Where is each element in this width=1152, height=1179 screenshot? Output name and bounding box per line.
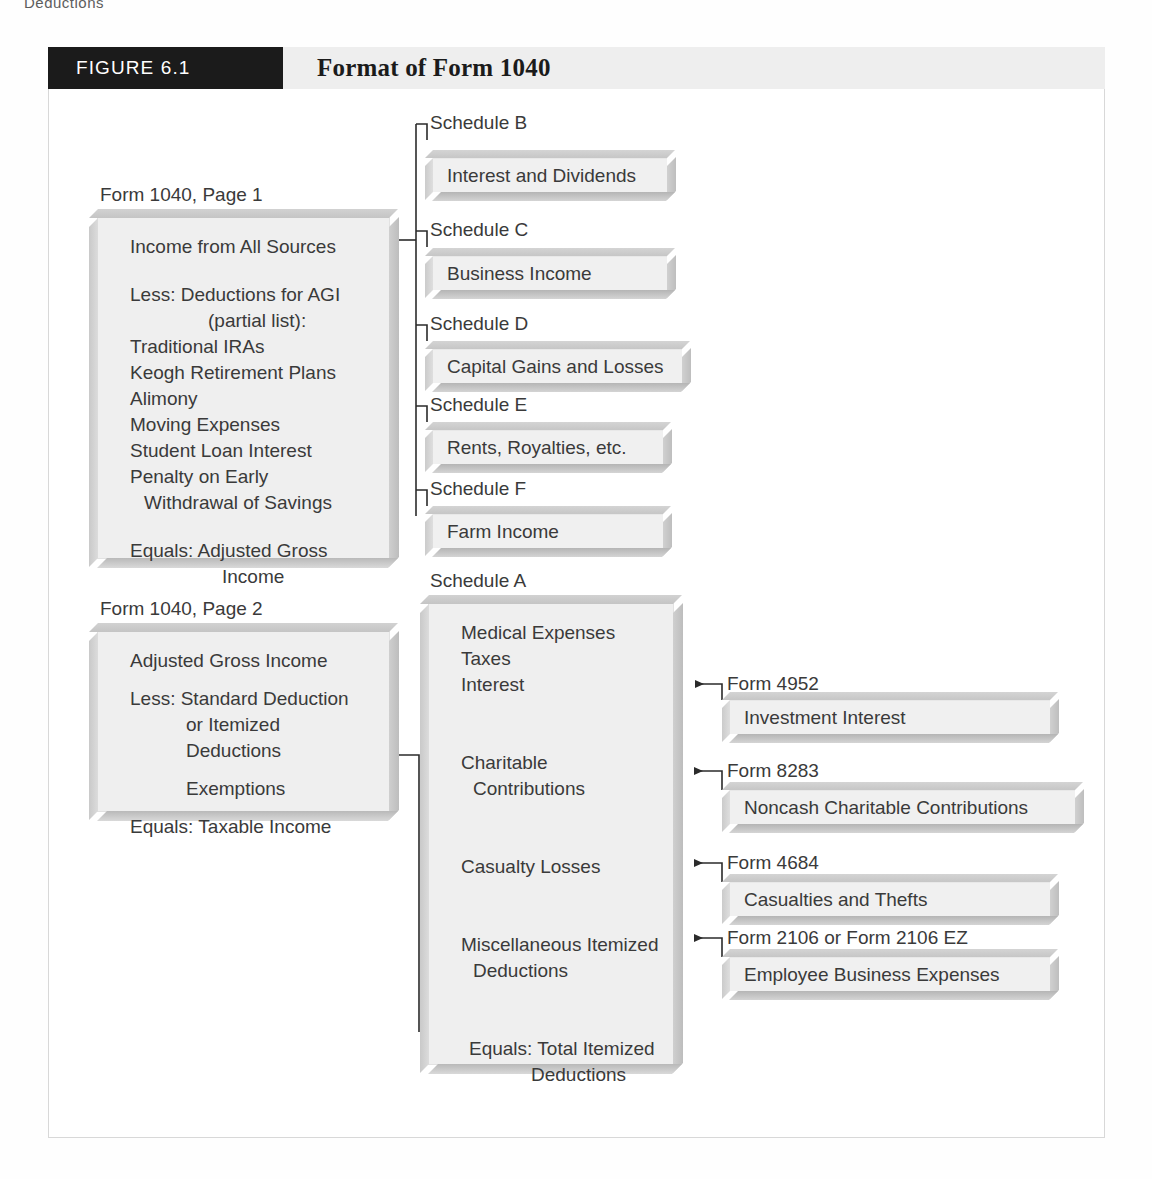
page1-line-less-deductions: Less: Deductions for AGI bbox=[116, 282, 371, 308]
schedule-f-description: Farm Income bbox=[433, 514, 663, 548]
schedule-d-description: Capital Gains and Losses bbox=[433, 349, 682, 383]
panel-left-face bbox=[420, 604, 429, 1073]
schedule-a-content: Medical Expenses Taxes Interest Charitab… bbox=[429, 604, 673, 1064]
form-4684-name: Form 4684 bbox=[727, 852, 819, 874]
form-4684-description: Casualties and Thefts bbox=[730, 882, 1050, 916]
spacer bbox=[447, 698, 655, 750]
form-1040-page1-content: Income from All Sources Less: Deductions… bbox=[98, 218, 389, 558]
schedule-e-bar: Rents, Royalties, etc. bbox=[433, 430, 663, 464]
page1-line-income: Income from All Sources bbox=[116, 234, 371, 260]
schedule-a-caption: Schedule A bbox=[430, 570, 526, 592]
sched-a-line-total-deductions: Deductions bbox=[447, 1062, 655, 1088]
spacer bbox=[116, 802, 371, 814]
schedule-c-name: Schedule C bbox=[430, 219, 528, 241]
page1-line-moving-expenses: Moving Expenses bbox=[116, 412, 371, 438]
spacer bbox=[447, 802, 655, 854]
page1-line-alimony: Alimony bbox=[116, 386, 371, 412]
figure-header: FIGURE 6.1 Format of Form 1040 bbox=[48, 47, 1105, 89]
schedule-e-name: Schedule E bbox=[430, 394, 527, 416]
spacer bbox=[116, 516, 371, 538]
schedule-b-bar: Interest and Dividends bbox=[433, 158, 667, 192]
page1-line-agi-income: Income bbox=[116, 564, 371, 590]
form-1040-page1-panel: Income from All Sources Less: Deductions… bbox=[97, 217, 390, 559]
sched-a-line-contributions: Contributions bbox=[447, 776, 655, 802]
sched-a-line-misc-deductions: Deductions bbox=[447, 958, 655, 984]
sched-a-line-taxes: Taxes bbox=[447, 646, 655, 672]
page1-line-traditional-iras: Traditional IRAs bbox=[116, 334, 371, 360]
sched-a-line-equals-total-itemized: Equals: Total Itemized bbox=[447, 1036, 655, 1062]
schedule-b-description: Interest and Dividends bbox=[433, 158, 667, 192]
schedule-c-description: Business Income bbox=[433, 256, 667, 290]
spacer bbox=[447, 880, 655, 932]
page1-line-withdrawal-savings: Withdrawal of Savings bbox=[116, 490, 371, 516]
page1-line-penalty-early: Penalty on Early bbox=[116, 464, 371, 490]
form-4952-description: Investment Interest bbox=[730, 700, 1050, 734]
sched-a-line-charitable: Charitable bbox=[447, 750, 655, 776]
running-head: Deductions bbox=[24, 0, 104, 8]
form-2106-bar: Employee Business Expenses bbox=[730, 957, 1050, 991]
spacer bbox=[116, 674, 371, 686]
page2-line-exemptions: Exemptions bbox=[116, 776, 371, 802]
page2-line-agi: Adjusted Gross Income bbox=[116, 648, 371, 674]
panel-right-face bbox=[673, 603, 683, 1073]
page2-line-or-itemized: or Itemized bbox=[116, 712, 371, 738]
schedule-e-description: Rents, Royalties, etc. bbox=[433, 430, 663, 464]
form-8283-bar: Noncash Charitable Contributions bbox=[730, 790, 1075, 824]
page1-line-equals-agi: Equals: Adjusted Gross bbox=[116, 538, 371, 564]
form-2106-description: Employee Business Expenses bbox=[730, 957, 1050, 991]
form-1040-page2-panel: Adjusted Gross Income Less: Standard Ded… bbox=[97, 631, 390, 812]
page2-line-deductions: Deductions bbox=[116, 738, 371, 764]
panel-right-face bbox=[389, 217, 399, 567]
sched-a-line-misc-itemized: Miscellaneous Itemized bbox=[447, 932, 655, 958]
schedule-f-bar: Farm Income bbox=[433, 514, 663, 548]
form-8283-name: Form 8283 bbox=[727, 760, 819, 782]
panel-right-face bbox=[389, 631, 399, 820]
schedule-c-bar: Business Income bbox=[433, 256, 667, 290]
page1-line-student-loan-interest: Student Loan Interest bbox=[116, 438, 371, 464]
spacer bbox=[116, 260, 371, 282]
page1-line-partial-list: (partial list): bbox=[116, 308, 371, 334]
page1-line-keogh: Keogh Retirement Plans bbox=[116, 360, 371, 386]
form-8283-description: Noncash Charitable Contributions bbox=[730, 790, 1075, 824]
figure-page: Deductions FIGURE 6.1 Format of Form 104… bbox=[0, 0, 1152, 1179]
panel-left-face bbox=[89, 218, 98, 567]
page2-line-less-standard-deduction: Less: Standard Deduction bbox=[116, 686, 371, 712]
schedule-a-panel: Medical Expenses Taxes Interest Charitab… bbox=[428, 603, 674, 1065]
figure-number-label: FIGURE 6.1 bbox=[48, 47, 283, 89]
schedule-f-name: Schedule F bbox=[430, 478, 526, 500]
page2-line-equals-taxable-income: Equals: Taxable Income bbox=[116, 814, 371, 840]
schedule-d-name: Schedule D bbox=[430, 313, 528, 335]
sched-a-line-medical-expenses: Medical Expenses bbox=[447, 620, 655, 646]
spacer bbox=[116, 764, 371, 776]
form-4684-bar: Casualties and Thefts bbox=[730, 882, 1050, 916]
panel-left-face bbox=[89, 632, 98, 820]
sched-a-line-interest: Interest bbox=[447, 672, 655, 698]
form-2106-name: Form 2106 or Form 2106 EZ bbox=[727, 927, 968, 949]
spacer bbox=[447, 984, 655, 1036]
sched-a-line-casualty-losses: Casualty Losses bbox=[447, 854, 655, 880]
form-4952-bar: Investment Interest bbox=[730, 700, 1050, 734]
schedule-b-name: Schedule B bbox=[430, 112, 527, 134]
form-1040-page2-caption: Form 1040, Page 2 bbox=[100, 598, 263, 620]
schedule-d-bar: Capital Gains and Losses bbox=[433, 349, 682, 383]
figure-title: Format of Form 1040 bbox=[283, 47, 1105, 89]
form-1040-page1-caption: Form 1040, Page 1 bbox=[100, 184, 263, 206]
form-1040-page2-content: Adjusted Gross Income Less: Standard Ded… bbox=[98, 632, 389, 811]
